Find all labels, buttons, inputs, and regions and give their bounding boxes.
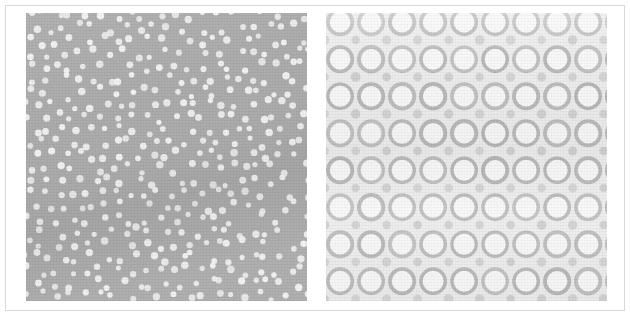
micrograph-panel-right[interactable]: [326, 13, 607, 301]
ring-lattice-array-image: [326, 13, 607, 301]
panel-row: [6, 6, 624, 310]
micrograph-panel-left[interactable]: [26, 13, 307, 301]
disordered-dot-array-image: [26, 13, 307, 301]
figure-frame: [5, 5, 625, 311]
